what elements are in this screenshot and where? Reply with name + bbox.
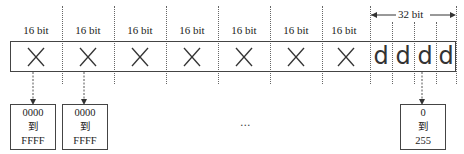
d-cell: d [414, 39, 436, 73]
cross-icon [114, 45, 166, 69]
bit-label: 16 bit [10, 24, 62, 36]
pointer-arrow [81, 72, 87, 105]
range-box: 0000 到 FFFF [62, 104, 108, 150]
range-to: FFFF [63, 134, 107, 148]
bit-label: 16 bit [318, 24, 370, 36]
range-to-word: 到 [63, 120, 107, 134]
bit-label: 16 bit [218, 24, 270, 36]
cross-icon [270, 45, 322, 69]
range-to: FFFF [11, 134, 55, 148]
d-cell: d [392, 39, 414, 73]
bit-label: 16 bit [166, 24, 218, 36]
cross-icon [218, 45, 270, 69]
range-from: 0000 [63, 106, 107, 120]
cross-icon [10, 45, 62, 69]
cross-icon [166, 45, 218, 69]
ellipsis: ... [240, 116, 251, 129]
bit-label: 16 bit [62, 24, 114, 36]
pointer-arrow [30, 72, 36, 105]
d-cell: d [435, 39, 457, 73]
cross-icon [62, 45, 114, 69]
range-to-word: 到 [401, 120, 445, 134]
range-box: 0000 到 FFFF [10, 104, 56, 150]
range-to-word: 到 [11, 120, 55, 134]
span-label: 32 bit [398, 8, 423, 20]
range-from: 0 [401, 106, 445, 120]
d-cell: d [370, 39, 392, 73]
pointer-arrow [419, 72, 425, 105]
cross-icon [320, 45, 372, 69]
bit-label: 16 bit [270, 24, 322, 36]
range-box: 0 到 255 [400, 104, 446, 150]
range-to: 255 [401, 134, 445, 148]
bit-label: 16 bit [114, 24, 166, 36]
range-from: 0000 [11, 106, 55, 120]
